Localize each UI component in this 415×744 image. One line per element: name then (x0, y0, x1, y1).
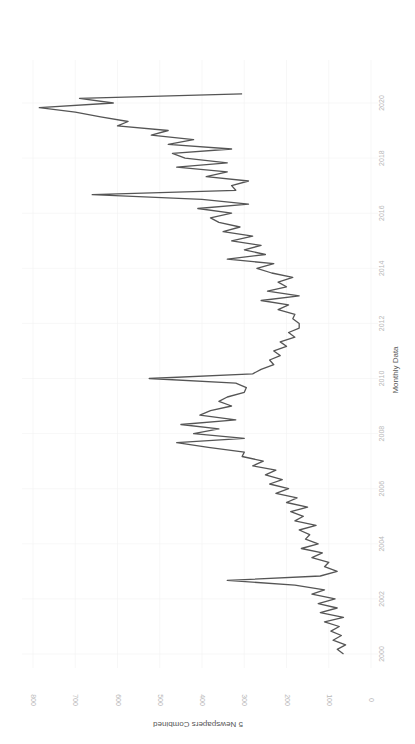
x-axis-ticks: 2000200220042006200820102012201420162018… (378, 95, 385, 662)
x-tick-label: 2006 (378, 481, 385, 497)
x-tick-label: 2014 (378, 260, 385, 276)
y-tick-label: 200 (284, 694, 291, 706)
y-tick-label: 400 (199, 694, 206, 706)
line-chart: 0100200300400500600700800 20002002200420… (0, 0, 415, 744)
y-tick-label: 0 (368, 698, 375, 702)
x-tick-label: 2000 (378, 646, 385, 662)
y-tick-label: 300 (241, 694, 248, 706)
x-tick-label: 2010 (378, 371, 385, 387)
x-tick-label: 2012 (378, 316, 385, 332)
y-axis-ticks: 0100200300400500600700800 (30, 694, 375, 706)
y-tick-label: 800 (30, 694, 37, 706)
y-tick-label: 600 (115, 694, 122, 706)
x-tick-label: 2020 (378, 95, 385, 111)
y-tick-label: 700 (72, 694, 79, 706)
x-tick-label: 2002 (378, 591, 385, 607)
x-tick-label: 2018 (378, 150, 385, 166)
series-line-newspapers (39, 94, 345, 654)
y-tick-label: 100 (326, 694, 333, 706)
y-tick-label: 500 (157, 694, 164, 706)
x-tick-label: 2004 (378, 536, 385, 552)
y-axis-title: 5 Newspapers Combined (153, 720, 243, 729)
x-tick-label: 2016 (378, 205, 385, 221)
x-axis-title: Monthly Data (391, 346, 400, 394)
x-tick-label: 2008 (378, 426, 385, 442)
